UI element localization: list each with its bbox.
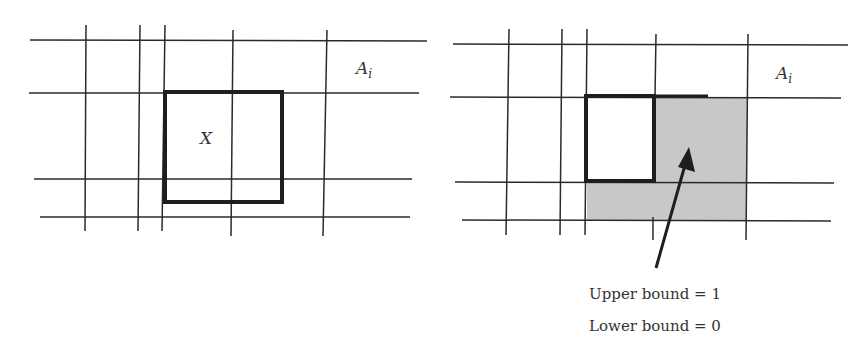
left-h-line-1 [30, 40, 427, 41]
right-v-line-5 [746, 34, 748, 240]
right-v-line-4-top [655, 34, 656, 97]
left-v-line-2 [138, 25, 140, 231]
right-h-line-4 [462, 220, 831, 221]
lower-bound-label: Lower bound = 0 [555, 317, 755, 335]
left-grid-lines [29, 25, 427, 236]
right-v-line-2 [560, 29, 562, 235]
right-region-label: Ai [774, 63, 792, 86]
right-h-line-1 [453, 44, 848, 45]
right-panel: Ai [450, 29, 848, 268]
left-region-label: Ai [354, 58, 372, 81]
left-box-label: X [198, 128, 213, 148]
right-x-box [586, 96, 654, 181]
shaded-region-lower [587, 181, 747, 221]
right-v-line-1 [506, 29, 509, 235]
left-v-line-5 [323, 30, 327, 236]
left-x-box [165, 92, 282, 202]
left-v-line-1 [85, 25, 86, 231]
left-v-line-4 [231, 30, 233, 236]
upper-bound-label: Upper bound = 1 [555, 285, 755, 303]
left-panel: X Ai [29, 25, 427, 236]
